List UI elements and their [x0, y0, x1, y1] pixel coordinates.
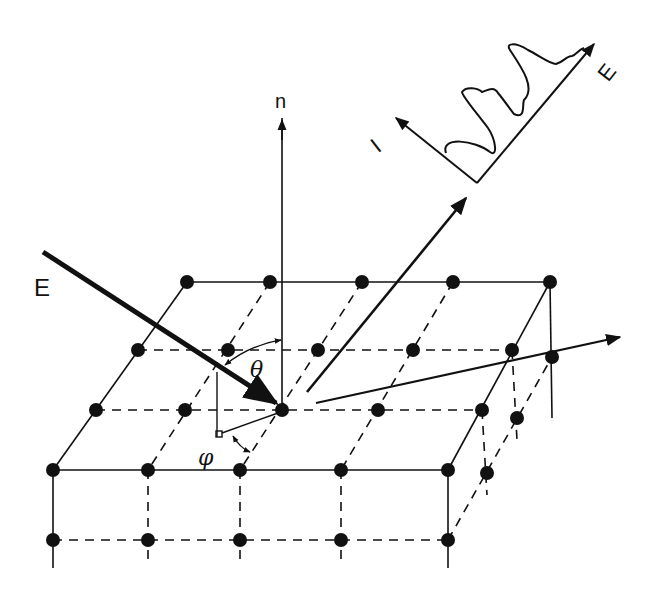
spectrum-energy-label: E — [592, 59, 621, 86]
lattice-solid-edges — [53, 118, 552, 568]
spectrum-intensity-label: I — [366, 134, 386, 157]
spectrum-inset: I E — [366, 44, 621, 183]
spectrum-energy-axis — [477, 44, 594, 183]
angle-construction — [216, 340, 281, 452]
lattice-dashed-edges — [53, 282, 552, 565]
scattered-beam-arrow — [307, 198, 466, 392]
phi-label: φ — [198, 445, 214, 470]
incident-energy-label: E — [34, 274, 50, 301]
lattice-atoms — [46, 275, 559, 547]
theta-label: θ — [250, 357, 263, 382]
grazing-beam-arrow — [316, 337, 620, 403]
spectrum-intensity-axis — [396, 118, 477, 183]
surface-scattering-diagram: n E θ φ I E — [0, 0, 654, 607]
normal-label: n — [275, 90, 286, 112]
